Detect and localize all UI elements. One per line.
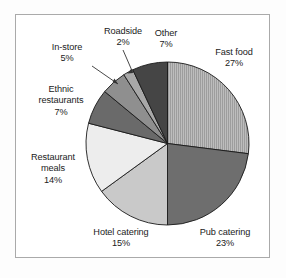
slice-label-ethnic-restaurants: Ethnic restaurants 7% bbox=[22, 84, 100, 118]
slice-label-in-store-name: In-store bbox=[38, 42, 96, 53]
slice-label-fast-food: Fast food 27% bbox=[196, 47, 272, 70]
slice-label-hotel-catering-name: Hotel catering bbox=[73, 227, 169, 238]
slice-label-ethnic-restaurants-name2: restaurants bbox=[22, 95, 100, 106]
slice-label-pub-catering-value: 23% bbox=[182, 238, 268, 249]
slice-label-in-store: In-store 5% bbox=[38, 42, 96, 65]
pie-slices bbox=[86, 62, 249, 225]
chart-canvas: Fast food 27% Pub catering 23% Hotel cat… bbox=[0, 0, 286, 278]
slice-label-restaurant-meals-value: 14% bbox=[17, 175, 89, 186]
slice-label-fast-food-name: Fast food bbox=[196, 47, 272, 58]
pie-slice-pub-catering bbox=[168, 144, 249, 226]
slice-label-other-value: 7% bbox=[142, 39, 190, 50]
slice-label-ethnic-restaurants-name1: Ethnic bbox=[22, 84, 100, 95]
slice-label-pub-catering: Pub catering 23% bbox=[182, 227, 268, 250]
slice-label-hotel-catering-value: 15% bbox=[73, 238, 169, 249]
slice-label-hotel-catering: Hotel catering 15% bbox=[73, 227, 169, 250]
slice-label-fast-food-value: 27% bbox=[196, 58, 272, 69]
slice-label-restaurant-meals: Restaurant meals 14% bbox=[17, 152, 89, 186]
slice-label-ethnic-restaurants-value: 7% bbox=[22, 107, 100, 118]
slice-label-pub-catering-name: Pub catering bbox=[182, 227, 268, 238]
leader-line-roadside bbox=[123, 50, 133, 73]
slice-label-in-store-value: 5% bbox=[38, 53, 96, 64]
slice-label-restaurant-meals-name2: meals bbox=[17, 163, 89, 174]
slice-label-restaurant-meals-name1: Restaurant bbox=[17, 152, 89, 163]
slice-label-other: Other 7% bbox=[142, 28, 190, 51]
slice-label-other-name: Other bbox=[142, 28, 190, 39]
pie-slice-fast-food bbox=[168, 62, 250, 154]
